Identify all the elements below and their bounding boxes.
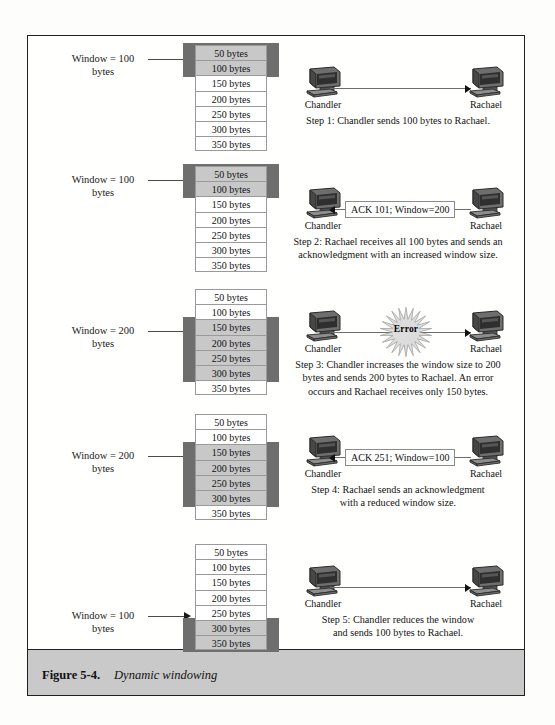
figure-page-frame: Window = 100bytes50 bytes100 bytes150 by… <box>27 35 525 696</box>
caption-line: Step 1: Chandler sends 100 bytes to Rach… <box>280 114 516 127</box>
window-label-line2: bytes <box>43 622 163 635</box>
byte-stack-1: 50 bytes100 bytes150 bytes200 bytes250 b… <box>195 45 267 151</box>
link-arrow-right-5 <box>465 584 471 592</box>
byte-cell: 50 bytes <box>195 414 267 429</box>
step-caption-5: Step 5: Chandler reduces the windowand s… <box>280 613 516 640</box>
caption-line: Step 4: Rachael sends an acknowledgment <box>280 483 516 496</box>
window-size-label-5: Window = 100bytes <box>43 609 163 635</box>
byte-cell: 300 bytes <box>195 620 267 635</box>
host-name-label: Rachael <box>463 220 509 231</box>
host-name-label: Rachael <box>463 343 509 354</box>
window-pointer-line-2 <box>148 180 184 181</box>
byte-stack-2: 50 bytes100 bytes150 bytes200 bytes250 b… <box>195 166 267 272</box>
window-size-label-4: Window = 200bytes <box>43 449 163 475</box>
byte-cell-list-5: 50 bytes100 bytes150 bytes200 bytes250 b… <box>195 544 267 650</box>
host-name-label: Chandler <box>300 468 346 479</box>
window-size-label-1: Window = 100bytes <box>43 52 163 78</box>
window-label-line1: Window = 200 <box>72 450 135 461</box>
computer-icon <box>467 66 505 98</box>
link-arrow-left-4 <box>329 454 335 462</box>
byte-cell: 50 bytes <box>195 289 267 304</box>
byte-cell: 250 bytes <box>195 475 267 490</box>
byte-stack-3: 50 bytes100 bytes150 bytes200 bytes250 b… <box>195 289 267 395</box>
figure-number: Figure 5-4. <box>42 668 100 682</box>
byte-cell: 150 bytes <box>195 196 267 211</box>
byte-stack-4: 50 bytes100 bytes150 bytes200 bytes250 b… <box>195 414 267 520</box>
error-starburst-3: Error <box>378 306 434 358</box>
byte-cell-list-3: 50 bytes100 bytes150 bytes200 bytes250 b… <box>195 289 267 395</box>
byte-cell: 350 bytes <box>195 257 267 272</box>
computer-icon <box>304 310 342 342</box>
byte-cell: 250 bytes <box>195 106 267 121</box>
window-pointer-line-3 <box>148 331 184 332</box>
host-name-label: Rachael <box>463 598 509 609</box>
byte-cell-list-4: 50 bytes100 bytes150 bytes200 bytes250 b… <box>195 414 267 520</box>
host-name-label: Chandler <box>300 220 346 231</box>
window-label-line1: Window = 100 <box>72 174 135 185</box>
window-size-label-2: Window = 100bytes <box>43 173 163 199</box>
window-label-line2: bytes <box>43 65 163 78</box>
host-name-label: Rachael <box>463 468 509 479</box>
byte-cell: 150 bytes <box>195 444 267 459</box>
byte-cell: 50 bytes <box>195 166 267 181</box>
caption-line: Step 3: Chandler increases the window si… <box>280 358 516 371</box>
window-label-line2: bytes <box>43 337 163 350</box>
byte-cell: 250 bytes <box>195 227 267 242</box>
computer-icon <box>467 435 505 467</box>
link-arrow-right-1 <box>465 85 471 93</box>
byte-cell: 350 bytes <box>195 380 267 395</box>
byte-cell-list-1: 50 bytes100 bytes150 bytes200 bytes250 b… <box>195 45 267 151</box>
byte-cell: 300 bytes <box>195 121 267 136</box>
byte-cell: 50 bytes <box>195 544 267 559</box>
caption-line: Step 5: Chandler reduces the window <box>280 613 516 626</box>
figure-title: Dynamic windowing <box>114 668 217 682</box>
host-name-label: Chandler <box>300 343 346 354</box>
window-pointer-line-4 <box>148 456 184 457</box>
ack-message-box-4: ACK 251; Window=100 <box>345 449 455 466</box>
window-label-line2: bytes <box>43 462 163 475</box>
computer-icon <box>467 187 505 219</box>
byte-cell-list-2: 50 bytes100 bytes150 bytes200 bytes250 b… <box>195 166 267 272</box>
byte-cell: 200 bytes <box>195 460 267 475</box>
caption-line: bytes and sends 200 bytes to Rachael. An… <box>280 371 516 384</box>
caption-line: occurs and Rachael receives only 150 byt… <box>280 385 516 398</box>
computer-icon <box>467 565 505 597</box>
computer-icon <box>304 435 342 467</box>
byte-cell: 200 bytes <box>195 590 267 605</box>
byte-cell: 100 bytes <box>195 60 267 75</box>
byte-cell: 50 bytes <box>195 45 267 60</box>
byte-cell: 200 bytes <box>195 212 267 227</box>
byte-cell: 200 bytes <box>195 335 267 350</box>
step-caption-1: Step 1: Chandler sends 100 bytes to Rach… <box>280 114 516 127</box>
byte-cell: 300 bytes <box>195 490 267 505</box>
byte-cell: 300 bytes <box>195 365 267 380</box>
computer-icon <box>304 187 342 219</box>
byte-cell: 100 bytes <box>195 429 267 444</box>
byte-cell: 150 bytes <box>195 319 267 334</box>
transmission-link-5 <box>330 587 471 588</box>
computer-icon <box>304 66 342 98</box>
byte-cell: 350 bytes <box>195 505 267 520</box>
byte-stack-5: 50 bytes100 bytes150 bytes200 bytes250 b… <box>195 544 267 650</box>
host-name-label: Chandler <box>300 99 346 110</box>
step-caption-3: Step 3: Chandler increases the window si… <box>280 358 516 398</box>
byte-cell: 150 bytes <box>195 75 267 90</box>
byte-cell: 250 bytes <box>195 350 267 365</box>
window-size-label-3: Window = 200bytes <box>43 324 163 350</box>
host-name-label: Chandler <box>300 598 346 609</box>
error-label: Error <box>378 324 434 334</box>
ack-message-box-2: ACK 101; Window=200 <box>345 201 455 218</box>
caption-line: with a reduced window size. <box>280 496 516 509</box>
window-label-line2: bytes <box>43 186 163 199</box>
link-arrow-right-3 <box>465 329 471 337</box>
window-label-line1: Window = 100 <box>72 610 135 621</box>
byte-cell: 150 bytes <box>195 574 267 589</box>
byte-cell: 100 bytes <box>195 304 267 319</box>
byte-cell: 250 bytes <box>195 605 267 620</box>
window-pointer-line-1 <box>148 59 184 60</box>
caption-line: acknowledgment with an increased window … <box>280 248 516 261</box>
caption-line: Step 2: Rachael receives all 100 bytes a… <box>280 235 516 248</box>
byte-cell: 300 bytes <box>195 242 267 257</box>
byte-cell: 100 bytes <box>195 559 267 574</box>
figure-caption-band: Figure 5-4.Dynamic windowing <box>28 649 524 695</box>
